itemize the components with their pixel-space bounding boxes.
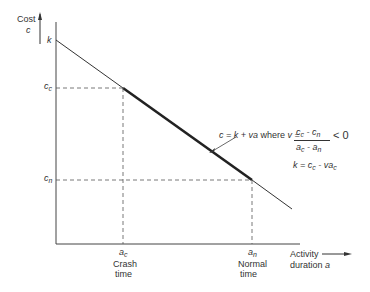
x-axis-label-2: duration a — [290, 260, 330, 270]
y-arrowhead-icon — [38, 12, 42, 20]
x-axis-label-1: Activity — [290, 249, 319, 259]
tick-cc: cc — [44, 81, 52, 94]
tick-k: k — [47, 35, 52, 45]
crash-caption-1: Crash — [113, 259, 137, 269]
crash-caption-2: time — [115, 269, 132, 279]
tick-cn: cn — [44, 173, 52, 186]
x-arrowhead-icon — [344, 252, 352, 256]
slope-numerator: cc - cn — [296, 127, 320, 138]
slope-denominator: ac - an — [296, 142, 321, 153]
cost-line-lower — [252, 180, 292, 209]
y-axis-symbol: c — [26, 25, 31, 35]
cost-line-upper — [56, 40, 123, 88]
less-than-zero: < 0 — [333, 130, 349, 140]
k-equation: k = cc - vac — [293, 160, 337, 173]
normal-caption-2: time — [240, 269, 257, 279]
line-equation: c = k + va where v = — [219, 130, 300, 140]
fraction-bar — [294, 140, 330, 141]
normal-caption-1: Normal — [238, 259, 267, 269]
y-axis-label: Cost — [17, 14, 36, 24]
